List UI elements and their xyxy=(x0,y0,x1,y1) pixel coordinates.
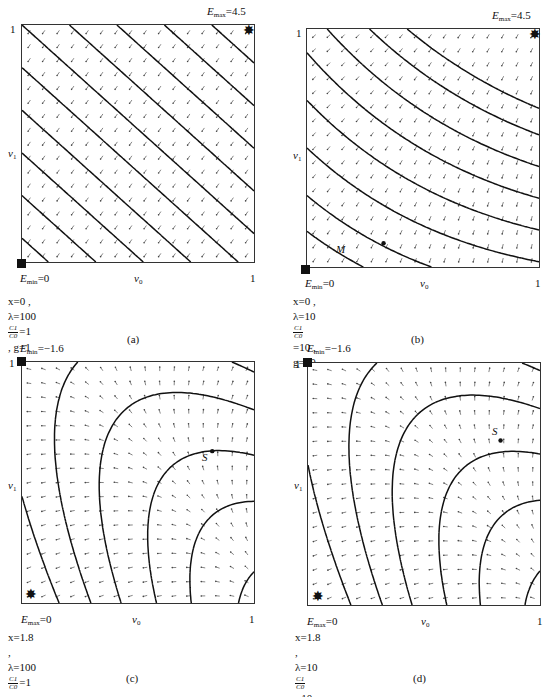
vector-field-plot xyxy=(22,362,254,603)
energy-contour-line xyxy=(22,25,254,234)
energy-contour-line xyxy=(22,153,143,262)
energy-contour-line xyxy=(55,362,255,603)
panel-a-caption: (a) xyxy=(127,333,139,345)
panel-d-x-axis-label: v0 xyxy=(421,616,429,629)
panel-a-emax-star-marker: ✸ xyxy=(243,24,255,38)
panel-b-emax-label: Emax=4.5 xyxy=(492,10,531,23)
panel-d-param-line1: x=1.8 , λ=10 xyxy=(295,630,320,675)
energy-contour-line xyxy=(392,395,540,605)
panel-a-emin-label: Emin=0 xyxy=(20,273,49,286)
energy-contour-line xyxy=(370,29,540,135)
energy-contour-line xyxy=(70,25,255,191)
panel-b-x-tick-1: 1 xyxy=(535,278,541,289)
panel-a-x-tick-1: 1 xyxy=(250,273,256,284)
critical-point-marker xyxy=(498,438,502,442)
panel-c-y-tick-1: 1 xyxy=(9,358,15,369)
energy-contour-line xyxy=(22,110,191,262)
panel-a-plot-area xyxy=(21,24,255,263)
panel-b-point-m-label: M xyxy=(336,244,345,255)
vector-field-plot xyxy=(22,25,254,262)
panel-c-caption: (c) xyxy=(126,672,138,684)
panel-c-emax-star-marker: ✸ xyxy=(25,588,37,602)
panel-d-plot-area xyxy=(307,362,541,606)
panel-c-point-s-label: S xyxy=(202,452,208,463)
vector-field-plot xyxy=(307,29,539,267)
panel-c-emin-label: Emin=−1.6 xyxy=(20,343,64,356)
panel-d-parameters: x=1.8 , λ=10 C1C0=10 , g=1 xyxy=(295,630,320,697)
panel-c-param-line1: x=1.8 , λ=100 xyxy=(8,630,36,675)
energy-contour-line xyxy=(479,500,540,605)
panel-d-emin-square-marker xyxy=(303,358,312,367)
panel-c-plot-area xyxy=(21,361,255,604)
panel-d-x-tick-1: 1 xyxy=(537,616,543,627)
panel-d-y-tick-1: 1 xyxy=(295,359,301,370)
panel-c-y-axis-label: v1 xyxy=(8,480,16,493)
energy-contour-line xyxy=(22,68,238,262)
panel-d-point-s-label: S xyxy=(492,426,498,437)
panel-c-ratio: C1C0 xyxy=(8,676,18,691)
panel-b-caption: (b) xyxy=(411,333,424,345)
energy-contour-line xyxy=(439,451,540,605)
panel-b-emin-square-marker xyxy=(301,265,310,274)
panel-b-ratio: C1C0 xyxy=(293,325,303,340)
panel-a-ratio: C1C0 xyxy=(8,325,18,340)
panel-a-y-axis-label: v1 xyxy=(8,148,16,161)
panel-d-y-axis-label: v1 xyxy=(294,480,302,493)
panel-a-x-axis-label: v0 xyxy=(134,273,142,286)
energy-contour-line xyxy=(307,53,539,198)
energy-contour-line xyxy=(407,29,539,108)
panel-a-param-line1: x=0 , λ=100 xyxy=(8,294,36,324)
panel-b-y-tick-1: 1 xyxy=(296,28,302,39)
panel-b-plot-area xyxy=(306,28,540,268)
energy-contour-line xyxy=(525,571,540,605)
energy-contour-line xyxy=(99,393,254,604)
panel-d-emax-star-marker: ✸ xyxy=(312,590,324,604)
energy-contour-line xyxy=(190,501,254,603)
panel-b-x-axis-label: v0 xyxy=(420,278,428,291)
panel-d-emax-label: Emax=0 xyxy=(307,616,338,629)
panel-d-emin-label: Emin=−1.6 xyxy=(307,343,351,356)
panel-c-x-axis-label: v0 xyxy=(132,614,140,627)
energy-contour-line xyxy=(164,25,254,106)
energy-contour-line xyxy=(22,196,96,262)
panel-c-x-tick-1: 1 xyxy=(249,614,255,625)
vector-field-plot xyxy=(308,363,540,605)
critical-point-marker xyxy=(381,241,385,245)
panel-a-emin-square-marker xyxy=(17,259,26,268)
panel-c-parameters: x=1.8 , λ=100 C1C0=1 , g=0.1 xyxy=(8,630,36,697)
panel-c-emin-square-marker xyxy=(17,357,26,366)
panel-b-emax-star-marker: ✸ xyxy=(529,28,541,42)
panel-b-emin-label: Emin=0 xyxy=(305,278,334,291)
panel-c-emax-label: Emax=0 xyxy=(21,614,52,627)
panel-d-caption: (d) xyxy=(413,672,426,684)
panel-d-param-line2: =10 , g=1 xyxy=(295,692,318,697)
energy-contour-line xyxy=(307,196,431,267)
panel-a-y-tick-1: 1 xyxy=(10,24,16,35)
panel-b-y-axis-label: v1 xyxy=(293,150,301,163)
energy-contour-line xyxy=(148,451,254,603)
energy-contour-line xyxy=(239,572,255,603)
panel-d-ratio: C1C0 xyxy=(295,676,305,691)
panel-b-param-line1: x=0 , λ=10 xyxy=(293,294,316,324)
critical-point-marker xyxy=(210,449,214,453)
panel-a-emax-label: Emax=4.5 xyxy=(207,6,246,19)
